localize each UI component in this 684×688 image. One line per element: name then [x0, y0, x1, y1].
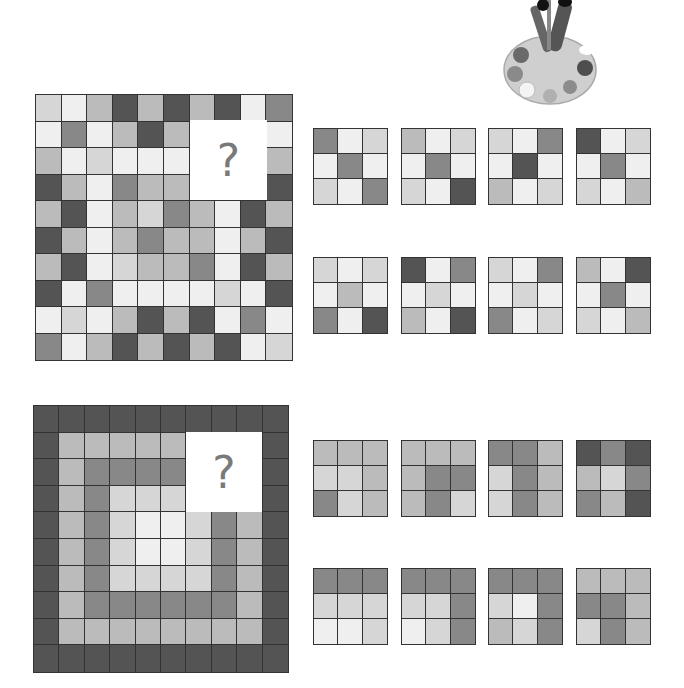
option-cell: [426, 466, 450, 491]
answer-option-1[interactable]: [313, 128, 388, 205]
option-cell: [626, 466, 650, 491]
option-cell: [402, 441, 426, 466]
grid-cell: [161, 459, 186, 486]
grid-cell: [34, 459, 59, 486]
option-cell: [601, 258, 625, 283]
option-cell: [338, 308, 362, 333]
grid-cell: [85, 619, 110, 646]
grid-cell: [241, 95, 267, 122]
grid-cell: [263, 433, 288, 460]
option-cell: [538, 179, 562, 204]
grid-cell: [59, 619, 84, 646]
option-cell: [577, 308, 601, 333]
grid-cell: [59, 645, 84, 672]
answer-option-3[interactable]: [488, 128, 563, 205]
option-cell: [513, 619, 537, 644]
grid-cell: [164, 334, 190, 361]
answer-option-8[interactable]: [576, 568, 651, 645]
option-cell: [426, 569, 450, 594]
option-cell: [314, 179, 338, 204]
answer-option-6[interactable]: [401, 568, 476, 645]
option-cell: [338, 569, 362, 594]
option-cell: [626, 491, 650, 516]
grid-cell: [215, 201, 241, 228]
grid-cell: [87, 307, 113, 334]
grid-cell: [263, 406, 288, 433]
option-cell: [601, 283, 625, 308]
option-cell: [451, 491, 475, 516]
option-cell: [451, 179, 475, 204]
grid-cell: [36, 254, 62, 281]
grid-cell: [241, 281, 267, 308]
grid-cell: [87, 281, 113, 308]
answer-option-5[interactable]: [313, 568, 388, 645]
grid-cell: [161, 512, 186, 539]
grid-cell: [85, 486, 110, 513]
grid-cell: [34, 406, 59, 433]
grid-cell: [263, 486, 288, 513]
answer-option-5[interactable]: [313, 257, 388, 334]
grid-cell: [266, 281, 292, 308]
grid-cell: [36, 334, 62, 361]
answer-option-6[interactable]: [401, 257, 476, 334]
grid-cell: [136, 512, 161, 539]
option-cell: [626, 283, 650, 308]
answer-option-3[interactable]: [488, 440, 563, 517]
option-cell: [601, 466, 625, 491]
option-cell: [538, 154, 562, 179]
option-cell: [577, 154, 601, 179]
grid-cell: [263, 539, 288, 566]
grid-cell: [212, 566, 237, 593]
grid-cell: [113, 334, 139, 361]
grid-cell: [237, 592, 262, 619]
grid-cell: [215, 95, 241, 122]
grid-cell: [110, 433, 135, 460]
question-mark-icon: ?: [217, 135, 240, 186]
answer-option-2[interactable]: [401, 440, 476, 517]
answer-option-4[interactable]: [576, 440, 651, 517]
grid-cell: [110, 566, 135, 593]
grid-cell: [85, 406, 110, 433]
grid-cell: [136, 619, 161, 646]
grid-cell: [266, 122, 292, 149]
option-cell: [363, 491, 387, 516]
grid-cell: [266, 254, 292, 281]
option-cell: [577, 283, 601, 308]
answer-option-8[interactable]: [576, 257, 651, 334]
option-cell: [402, 569, 426, 594]
grid-cell: [164, 228, 190, 255]
option-cell: [363, 619, 387, 644]
option-cell: [538, 441, 562, 466]
option-cell: [489, 441, 513, 466]
grid-cell: [190, 254, 216, 281]
puzzle1-missing-piece: ?: [190, 120, 267, 200]
grid-cell: [59, 566, 84, 593]
grid-cell: [190, 334, 216, 361]
grid-cell: [62, 307, 88, 334]
grid-cell: [87, 175, 113, 202]
question-mark-icon: ?: [212, 447, 235, 498]
option-cell: [402, 466, 426, 491]
option-cell: [489, 283, 513, 308]
option-cell: [402, 179, 426, 204]
option-cell: [489, 154, 513, 179]
grid-cell: [138, 95, 164, 122]
option-cell: [626, 129, 650, 154]
option-cell: [363, 179, 387, 204]
paint-palette-icon: [495, 0, 610, 110]
option-cell: [489, 308, 513, 333]
answer-option-1[interactable]: [313, 440, 388, 517]
answer-option-7[interactable]: [488, 257, 563, 334]
answer-option-4[interactable]: [576, 128, 651, 205]
answer-option-7[interactable]: [488, 568, 563, 645]
grid-cell: [164, 281, 190, 308]
grid-cell: [190, 281, 216, 308]
grid-cell: [136, 459, 161, 486]
grid-cell: [212, 539, 237, 566]
option-cell: [577, 491, 601, 516]
answer-option-2[interactable]: [401, 128, 476, 205]
option-cell: [451, 441, 475, 466]
option-cell: [426, 441, 450, 466]
grid-cell: [87, 122, 113, 149]
grid-cell: [138, 307, 164, 334]
